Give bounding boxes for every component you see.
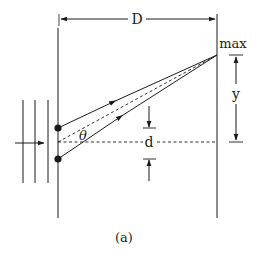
- bottom-slit-dot: [54, 155, 61, 162]
- figure-caption: (a): [115, 230, 133, 245]
- diagram-svg: D θ d max y (a): [0, 0, 258, 254]
- top-slit-ray: [58, 55, 217, 128]
- maximum-label: max: [219, 36, 247, 51]
- bottom-slit-ray: [58, 55, 217, 159]
- wavefronts: [23, 100, 48, 183]
- double-slit-diagram: D θ d max y (a): [0, 0, 258, 254]
- top-slit-dot: [54, 124, 61, 131]
- distance-label: D: [131, 11, 142, 27]
- displacement-label: y: [231, 86, 240, 102]
- angle-label: θ: [79, 128, 87, 143]
- slit-separation-label: d: [145, 134, 154, 150]
